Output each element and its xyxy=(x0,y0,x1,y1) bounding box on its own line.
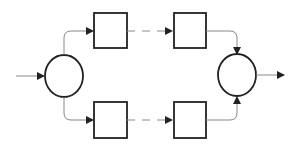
connector-bottom-to-merge xyxy=(206,97,237,120)
split-node-circle xyxy=(45,55,83,97)
bottom-block-n xyxy=(174,102,206,138)
bottom-block-1 xyxy=(94,102,127,138)
connector-split-to-top xyxy=(64,31,93,55)
block-diagram xyxy=(0,0,297,148)
merge-node-circle xyxy=(218,54,256,96)
top-block-1 xyxy=(94,13,127,48)
connector-top-to-merge xyxy=(206,31,237,54)
top-block-n xyxy=(174,13,206,48)
connector-split-to-bottom xyxy=(64,97,93,120)
